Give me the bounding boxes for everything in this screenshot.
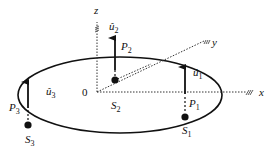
x-axis-break-icon [246, 90, 253, 95]
diagram-canvas: z y x 0 û2 P2 S2 û1 P1 S1 û3 P3 S3 [0, 0, 273, 157]
y-axis-break-icon [204, 40, 210, 44]
s2-label: S2 [111, 99, 121, 114]
p3-label: P3 [8, 101, 20, 116]
p2-label: P2 [120, 40, 132, 55]
u3-label: û3 [46, 85, 56, 100]
y-axis-label: y [211, 36, 217, 48]
source-s1-dot [181, 113, 188, 120]
origin-label: 0 [82, 86, 88, 98]
u1-label: û1 [193, 66, 203, 81]
z-axis-label: z [93, 4, 99, 16]
s3-label: S3 [25, 133, 35, 148]
z-axis-break-icon [95, 26, 99, 32]
s2-connector [115, 64, 151, 80]
u2-label: û2 [109, 20, 119, 35]
s1-label: S1 [182, 124, 192, 139]
p1-label: P1 [188, 97, 200, 112]
x-axis-label: x [258, 86, 264, 98]
source-s3-dot [24, 121, 31, 128]
source-s2-dot [111, 76, 118, 83]
